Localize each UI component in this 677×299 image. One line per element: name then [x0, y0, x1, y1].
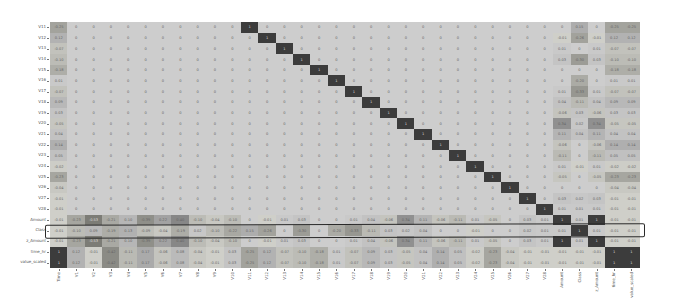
heatmap-cell: 0 — [224, 97, 242, 108]
heatmap-cell: 0 — [206, 97, 224, 108]
heatmap-cell: 0 — [519, 108, 537, 119]
heatmap-cell: 0 — [466, 97, 484, 108]
heatmap-cell: 0.01 — [553, 43, 571, 54]
heatmap-cell: 0.03 — [380, 247, 398, 258]
column-label: Amount — [559, 272, 564, 288]
heatmap-cell: 0 — [484, 43, 502, 54]
heatmap-cell: 0 — [102, 118, 120, 129]
column-label: V24 — [473, 272, 478, 280]
heatmap-cell: -0.42 — [102, 257, 120, 268]
column-tick — [631, 269, 632, 271]
heatmap-cell: 0.01 — [328, 247, 346, 258]
heatmap-cell: 0 — [67, 161, 85, 172]
heatmap-cell: -0.06 — [588, 140, 606, 151]
heatmap-cell: 0 — [380, 172, 398, 183]
heatmap-cell: 0 — [380, 118, 398, 129]
heatmap-cell: 0 — [449, 97, 467, 108]
heatmap-cell: -0.18 — [50, 65, 68, 76]
heatmap-cell: 0 — [466, 118, 484, 129]
heatmap-cell: 0 — [67, 54, 85, 65]
heatmap-cell: 1 — [362, 97, 380, 108]
heatmap-cell: 0 — [189, 118, 207, 129]
heatmap-cell: 0 — [432, 118, 450, 129]
heatmap-cell: 0 — [102, 54, 120, 65]
heatmap-cell: 0 — [137, 54, 155, 65]
heatmap-cell: 0 — [380, 140, 398, 151]
heatmap-cell: 0 — [519, 129, 537, 140]
heatmap-cell: 0 — [432, 65, 450, 76]
heatmap-cell: 0 — [85, 172, 103, 183]
heatmap-cell: 0 — [414, 65, 432, 76]
heatmap-cell: 0 — [154, 129, 172, 140]
heatmap-cell: 0 — [137, 204, 155, 215]
heatmap-cell: 0 — [258, 108, 276, 119]
column-label: V1 — [74, 272, 79, 277]
heatmap-cell: 0 — [484, 33, 502, 44]
row-tick — [47, 27, 49, 28]
heatmap-cell: 0 — [362, 65, 380, 76]
heatmap-cell: -0.26 — [571, 33, 589, 44]
heatmap-cell: 0 — [241, 140, 259, 151]
heatmap-cell: 0 — [171, 43, 189, 54]
heatmap-cell: 0 — [137, 22, 155, 33]
heatmap-cell: 0 — [102, 22, 120, 33]
heatmap-cell: 0 — [67, 150, 85, 161]
column-label: V23 — [455, 272, 460, 280]
heatmap-cell: 0 — [466, 108, 484, 119]
heatmap-cell: -0.01 — [588, 33, 606, 44]
heatmap-cell: -0.23 — [484, 247, 502, 258]
heatmap-cell: 0.04 — [623, 129, 641, 140]
heatmap-cell: 0 — [137, 75, 155, 86]
heatmap-cell: 0 — [362, 129, 380, 140]
heatmap-cell: 0 — [380, 204, 398, 215]
heatmap-cell: -0.06 — [154, 247, 172, 258]
heatmap-cell: -0.01 — [571, 257, 589, 268]
row-tick — [47, 188, 49, 189]
heatmap-cell: 0 — [119, 43, 137, 54]
column-tick — [284, 269, 285, 271]
heatmap-cell: 0 — [536, 22, 554, 33]
heatmap-cell: -0.18 — [310, 247, 328, 258]
heatmap-cell: 0.14 — [432, 257, 450, 268]
heatmap-cell: 0 — [484, 108, 502, 119]
heatmap-cell: 0 — [119, 172, 137, 183]
heatmap-cell: 0 — [501, 86, 519, 97]
heatmap-cell: 0.03 — [224, 247, 242, 258]
heatmap-cell: 0 — [345, 97, 363, 108]
heatmap-cell: 0 — [276, 193, 294, 204]
heatmap-cell: 0.01 — [553, 161, 571, 172]
heatmap-cell: 0 — [397, 65, 415, 76]
heatmap-cell: 0 — [154, 161, 172, 172]
heatmap-cell: 0 — [189, 108, 207, 119]
heatmap-cell: 0.03 — [623, 108, 641, 119]
heatmap-cell: 0 — [380, 129, 398, 140]
heatmap-cell: 0 — [484, 75, 502, 86]
heatmap-cell: 0 — [154, 182, 172, 193]
heatmap-cell: 0 — [310, 204, 328, 215]
heatmap-cell: 0 — [501, 97, 519, 108]
heatmap-cell: 0 — [414, 140, 432, 151]
heatmap-cell: 0.01 — [553, 86, 571, 97]
heatmap-cell: 0.08 — [171, 257, 189, 268]
column-label: V19 — [386, 272, 391, 280]
heatmap-cell: 0 — [293, 33, 311, 44]
heatmap-cell: 1 — [345, 86, 363, 97]
column-label: V28 — [542, 272, 547, 280]
heatmap-cell: 0.14 — [432, 247, 450, 258]
heatmap-cell: 1 — [623, 247, 641, 258]
heatmap-cell: 0 — [328, 161, 346, 172]
heatmap-cell: 0.03 — [50, 108, 68, 119]
heatmap-cell: 0.01 — [571, 204, 589, 215]
column-label: V21 — [421, 272, 426, 280]
heatmap-cell: 0 — [328, 43, 346, 54]
heatmap-cell: 0 — [484, 129, 502, 140]
heatmap-cell: 0 — [224, 118, 242, 129]
heatmap-cell: 0 — [258, 86, 276, 97]
heatmap-cell: 0 — [328, 150, 346, 161]
heatmap-cell: 0 — [380, 150, 398, 161]
heatmap-cell: 0 — [276, 54, 294, 65]
heatmap-cell: 0 — [380, 193, 398, 204]
heatmap-cell: -0.33 — [571, 86, 589, 97]
heatmap-cell: 0 — [241, 204, 259, 215]
heatmap-cell: 0 — [310, 108, 328, 119]
